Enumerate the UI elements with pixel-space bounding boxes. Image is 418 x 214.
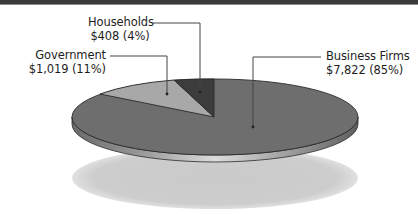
label-business-firms-name: Business Firms	[326, 49, 410, 63]
pie-chart	[0, 0, 418, 214]
label-households-value: $408 (4%)	[88, 29, 152, 43]
leader-dot-business-firms	[252, 126, 255, 129]
label-government: Government $1,019 (11%)	[20, 48, 106, 76]
label-households-name: Households	[88, 15, 152, 29]
label-business-firms-value: $7,822 (85%)	[326, 63, 410, 77]
leader-dot-government	[166, 93, 169, 96]
label-business-firms: Business Firms $7,822 (85%)	[326, 49, 410, 77]
label-government-value: $1,019 (11%)	[20, 62, 106, 76]
leader-dot-households	[199, 91, 202, 94]
label-households: Households $408 (4%)	[88, 15, 152, 43]
label-government-name: Government	[20, 48, 106, 62]
